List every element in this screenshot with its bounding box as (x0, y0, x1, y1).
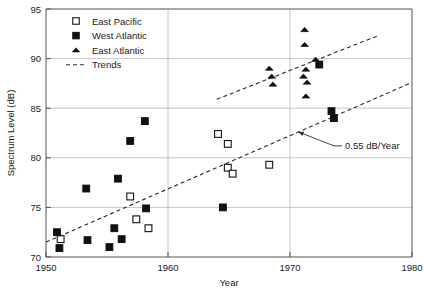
marker-filled-square (143, 205, 150, 212)
y-tick-label: 70 (30, 252, 41, 263)
y-tick-label: 90 (30, 53, 41, 64)
marker-open-square (133, 216, 140, 223)
marker-open-square (127, 193, 134, 200)
legend-label: East Pacific (92, 16, 142, 27)
x-axis-tick-labels: 1950 1960 1970 1980 (35, 262, 422, 273)
marker-filled-square (328, 108, 335, 115)
marker-filled-square (54, 229, 61, 236)
annotation-text: 0.55 dB/Year (345, 140, 400, 151)
x-tick-label: 1970 (279, 262, 300, 273)
marker-filled-square (56, 245, 63, 252)
marker-filled-square (111, 225, 118, 232)
y-tick-label: 95 (30, 4, 41, 15)
marker-open-square (266, 161, 273, 168)
marker-filled-square (118, 236, 125, 243)
marker-filled-square (141, 118, 148, 125)
x-tick-label: 1960 (157, 262, 178, 273)
y-tick-label: 85 (30, 103, 41, 114)
chart-figure: 95 90 85 80 75 70 1950 1960 1970 1980 Ye… (0, 0, 424, 289)
y-tick-label: 75 (30, 202, 41, 213)
marker-filled-square (106, 244, 113, 251)
x-axis-title: Year (219, 277, 238, 288)
marker-filled-square (316, 61, 323, 68)
marker-open-square (73, 18, 79, 24)
marker-open-square (229, 170, 236, 177)
legend-label: Trends (92, 59, 121, 70)
marker-filled-square (84, 237, 91, 244)
legend-label: East Atlantic (92, 45, 145, 56)
y-axis-tick-labels: 95 90 85 80 75 70 (30, 4, 41, 263)
marker-filled-square (220, 204, 227, 211)
legend-label: West Atlantic (92, 30, 147, 41)
marker-filled-square (115, 175, 122, 182)
marker-filled-square (73, 32, 79, 38)
marker-open-square (57, 236, 64, 243)
x-tick-label: 1980 (401, 262, 422, 273)
marker-open-square (145, 225, 152, 232)
x-tick-label: 1950 (35, 262, 56, 273)
marker-filled-square (127, 138, 134, 145)
y-axis-title: Spectrum Level (dB) (5, 90, 16, 177)
marker-filled-square (331, 115, 338, 122)
y-tick-label: 80 (30, 152, 41, 163)
marker-filled-square (83, 185, 90, 192)
marker-open-square (215, 131, 222, 138)
scatter-plot-svg: 95 90 85 80 75 70 1950 1960 1970 1980 Ye… (0, 0, 424, 289)
marker-open-square (224, 141, 231, 148)
